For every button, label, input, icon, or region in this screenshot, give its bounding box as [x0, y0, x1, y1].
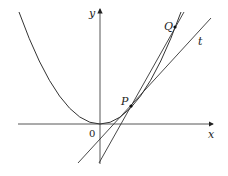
y-axis-label: y: [88, 7, 96, 20]
tangent-line-t: [78, 18, 211, 163]
point-q-dot: [173, 25, 176, 28]
diagram-canvas: y x 0 P Q t: [0, 0, 228, 176]
tangent-label: t: [198, 35, 203, 48]
point-q-label: Q: [164, 20, 173, 33]
origin-label: 0: [89, 128, 95, 139]
point-p-dot: [129, 104, 132, 107]
point-p-label: P: [120, 95, 129, 108]
x-axis-label: x: [208, 128, 215, 141]
secant-line-pq: [99, 12, 184, 163]
